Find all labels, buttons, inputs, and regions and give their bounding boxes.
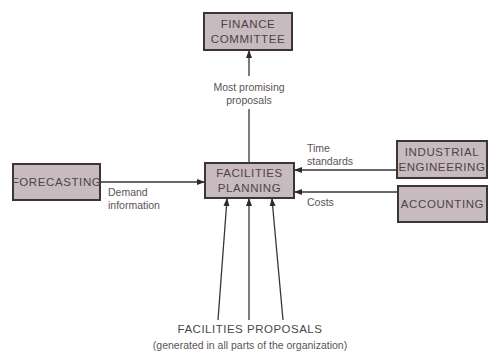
- finance-committee-box: FINANCE COMMITTEE: [203, 12, 293, 51]
- time-standards-label: Time standards: [307, 142, 353, 168]
- forecasting-label: FORECASTING: [12, 175, 102, 190]
- most-promising-proposals-label: Most promising proposals: [200, 81, 298, 107]
- accounting-box: ACCOUNTING: [397, 185, 488, 223]
- forecasting-box: FORECASTING: [12, 163, 101, 201]
- facilities-proposals-title: FACILITIES PROPOSALS: [150, 323, 350, 336]
- facilities-planning-box: FACILITIES PLANNING: [204, 162, 295, 199]
- industrial-engineering-label: INDUSTRIAL ENGINEERING: [398, 145, 485, 175]
- facilities-proposals-subtitle: (generated in all parts of the organizat…: [130, 339, 370, 352]
- arrow-proposal-right: [272, 199, 283, 320]
- facilities-planning-label: FACILITIES PLANNING: [216, 166, 283, 196]
- costs-label: Costs: [307, 196, 334, 209]
- finance-committee-label: FINANCE COMMITTEE: [211, 17, 285, 47]
- industrial-engineering-box: INDUSTRIAL ENGINEERING: [396, 140, 488, 179]
- arrow-proposal-left: [218, 199, 227, 320]
- accounting-label: ACCOUNTING: [401, 197, 484, 212]
- demand-information-label: Demand information: [108, 186, 160, 212]
